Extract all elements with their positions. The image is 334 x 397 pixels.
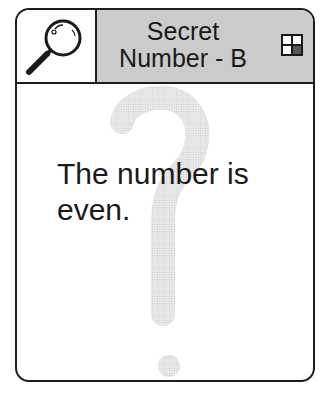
question-mark-icon [17, 84, 315, 382]
grid-quadrant-icon [281, 34, 303, 56]
title-cell: Secret Number - B [97, 10, 313, 82]
magnifying-glass-icon [17, 10, 97, 82]
secret-number-card[interactable]: Secret Number - B The number is even. [15, 8, 315, 382]
clue-text: The number is even. [57, 156, 297, 228]
title-line-1: Secret [97, 18, 269, 45]
title-line-2: Number - B [97, 45, 269, 72]
icon-cell [17, 10, 97, 82]
card-title: Secret Number - B [97, 18, 269, 72]
card-header: Secret Number - B [17, 10, 313, 84]
